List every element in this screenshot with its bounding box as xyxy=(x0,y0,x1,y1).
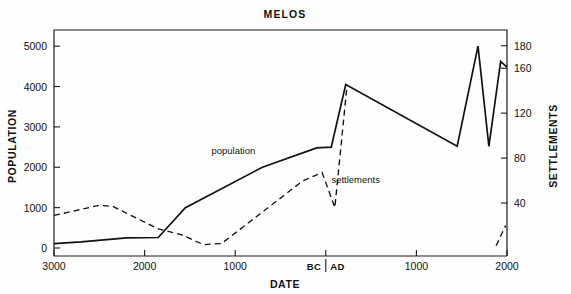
x-tick-label: 2000 xyxy=(495,260,519,272)
population-line xyxy=(54,46,507,243)
x-axis-ticks: 300020001000BCAD10002000 xyxy=(42,250,519,272)
series-annotations: populationsettlements xyxy=(211,145,380,184)
x-tick-label: 1000 xyxy=(405,260,429,272)
y-tick-label: 5000 xyxy=(24,40,48,52)
y2-tick-label: 180 xyxy=(514,40,532,52)
chart-title: MELOS xyxy=(264,8,307,20)
series-annotation-label: settlements xyxy=(331,174,380,185)
y-tick-label: 2000 xyxy=(24,161,48,173)
y2-tick-label: 80 xyxy=(514,152,526,164)
y-tick-label: 0 xyxy=(41,242,47,254)
y-tick-label: 1000 xyxy=(24,202,48,214)
x-tick-label: 1000 xyxy=(224,260,248,272)
plot-frame xyxy=(54,30,507,256)
settlements-line xyxy=(54,90,347,245)
y-tick-label: 4000 xyxy=(24,81,48,93)
series-annotation-label: population xyxy=(211,145,255,156)
y2-tick-label: 120 xyxy=(514,107,532,119)
x-era-label-ad: AD xyxy=(330,261,345,272)
y-tick-label: 3000 xyxy=(24,121,48,133)
melos-population-settlements-chart: MELOS 010002000300040005000 408012016018… xyxy=(0,0,571,294)
x-axis-title: DATE xyxy=(270,278,300,290)
chart-title-group: MELOS xyxy=(264,8,307,20)
y2-tick-label: 160 xyxy=(514,62,532,74)
settlements-modern-fragment-line xyxy=(496,226,506,246)
y-axis-title: POPULATION xyxy=(6,109,18,183)
y2-axis-title: SETTLEMENTS xyxy=(547,104,559,188)
series-group xyxy=(54,46,507,246)
x-tick-label: 2000 xyxy=(133,260,157,272)
x-tick-label: 3000 xyxy=(42,260,66,272)
chart-figure: MELOS 010002000300040005000 408012016018… xyxy=(0,0,571,294)
axes-frame xyxy=(54,30,507,256)
x-era-label-bc: BC xyxy=(307,261,322,272)
y2-tick-label: 40 xyxy=(514,197,526,209)
